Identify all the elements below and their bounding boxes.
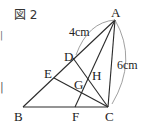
label-f: F bbox=[72, 109, 79, 124]
label-c: C bbox=[105, 109, 114, 124]
label-h: H bbox=[92, 68, 101, 83]
edge-mark-bottom: | bbox=[0, 80, 4, 94]
triangle-diagram: 図 2 | | A B C D E F G H 4cm 6cm bbox=[0, 0, 151, 127]
label-a: A bbox=[111, 5, 121, 20]
label-g: G bbox=[74, 77, 83, 92]
measure-ac: 6cm bbox=[117, 58, 138, 72]
label-b: B bbox=[14, 109, 23, 124]
figure-title: 図 2 bbox=[14, 8, 37, 22]
measure-ad: 4cm bbox=[69, 25, 90, 39]
edge-mark-top: | bbox=[0, 30, 3, 41]
label-d: D bbox=[64, 49, 73, 64]
label-e: E bbox=[44, 66, 52, 81]
